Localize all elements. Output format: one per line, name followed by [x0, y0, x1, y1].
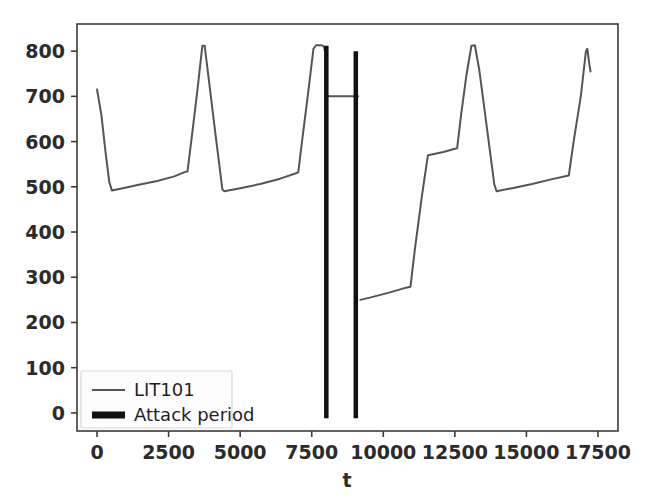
x-tick-label: 12500: [422, 441, 488, 463]
y-tick-label: 500: [25, 176, 65, 198]
x-axis-label: t: [342, 469, 351, 491]
y-tick-label: 100: [25, 357, 65, 379]
y-tick-label: 0: [52, 402, 65, 424]
legend-label-attack-period: Attack period: [134, 404, 255, 425]
y-tick-label: 700: [25, 85, 65, 107]
y-tick-label: 400: [25, 221, 65, 243]
y-tick-label: 300: [25, 266, 65, 288]
y-tick-label: 200: [25, 311, 65, 333]
x-tick-label: 2500: [142, 441, 195, 463]
x-tick-label: 5000: [214, 441, 267, 463]
x-tick-label: 15000: [493, 441, 559, 463]
x-tick-label: 0: [90, 441, 103, 463]
y-tick-label: 800: [25, 40, 65, 62]
chart-figure: 0100200300400500600700800 02500500075001…: [0, 0, 655, 502]
x-tick-label: 10000: [350, 441, 416, 463]
y-tick-label: 600: [25, 131, 65, 153]
x-tick-label: 17500: [565, 441, 631, 463]
x-tick-label: 7500: [285, 441, 338, 463]
line-chart: 0100200300400500600700800 02500500075001…: [0, 0, 655, 502]
chart-legend: LIT101 Attack period: [81, 371, 255, 428]
legend-label-lit101: LIT101: [134, 379, 195, 400]
